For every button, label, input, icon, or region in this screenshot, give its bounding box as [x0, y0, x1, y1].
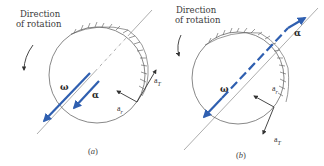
tangential-accel-label-a: aT [154, 76, 161, 87]
direction-label-a-line2: of rotation [16, 20, 61, 29]
direction-label-b-line2: of rotation [175, 16, 220, 25]
radial-accel-label-a: ar [117, 104, 123, 115]
radial-accel-vector-a [117, 91, 137, 102]
tangential-accel-vector-b [263, 107, 274, 134]
radial-accel-label-b: ar [272, 84, 278, 95]
rotation-direction-arrow-b [178, 35, 181, 56]
omega-alpha-vector-b [204, 98, 222, 117]
caption-b: (b) [236, 150, 246, 160]
tangential-accel-label-b: aT [274, 135, 281, 146]
radial-accel-vector-b [254, 96, 274, 107]
direction-label-b-line1: Direction [176, 6, 216, 15]
alpha-label-b: α [294, 28, 301, 38]
disk-a [49, 27, 145, 123]
alpha-label-a: α [92, 90, 99, 100]
direction-label-a-line1: Direction [20, 10, 60, 19]
rotation-direction-arrow-a [24, 45, 33, 70]
omega-label-a: ω [60, 82, 69, 92]
omega-label-b: ω [220, 84, 229, 94]
caption-a: (a) [88, 146, 98, 156]
